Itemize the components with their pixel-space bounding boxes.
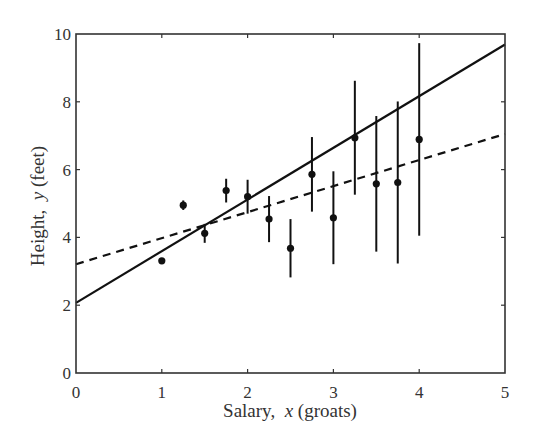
data-point [244,180,251,214]
marker-dot [287,245,294,252]
marker-dot [416,136,423,143]
data-point [265,196,272,242]
marker-dot [351,134,358,141]
marker-dot [201,230,208,237]
data-point [180,200,187,209]
x-tick-label: 5 [501,383,510,402]
marker-dot [244,193,251,200]
marker-dot [330,214,337,221]
data-point [351,81,358,195]
data-point [373,116,380,252]
y-tick-label: 2 [63,296,72,315]
data-point [394,101,401,263]
data-points [158,43,423,277]
y-tick-labels: 0246810 [54,25,72,383]
y-tick-label: 8 [63,93,72,112]
x-tick-label: 1 [158,383,167,402]
marker-dot [158,257,165,264]
data-point [223,179,230,203]
y-tick-label: 10 [54,25,71,44]
marker-dot [394,179,401,186]
marker-dot [180,202,187,209]
y-axis-label: Height, y (feet) [27,146,49,266]
data-point [416,43,423,236]
axis-ticks [76,34,505,373]
y-tick-label: 0 [63,364,72,383]
chart: 012345 0246810 Salary, x (groats) Height… [0,0,534,443]
marker-dot [223,187,230,194]
marker-dot [265,215,272,222]
marker-dot [373,180,380,187]
y-tick-label: 4 [63,228,72,247]
marker-dot [308,171,315,178]
x-tick-label: 4 [415,383,424,402]
data-point [287,219,294,277]
data-point [158,257,165,264]
x-tick-label: 0 [72,383,81,402]
x-axis-label: Salary, x (groats) [223,400,357,422]
plot-frame [76,34,505,373]
y-tick-label: 6 [63,161,72,180]
data-point [308,137,315,212]
